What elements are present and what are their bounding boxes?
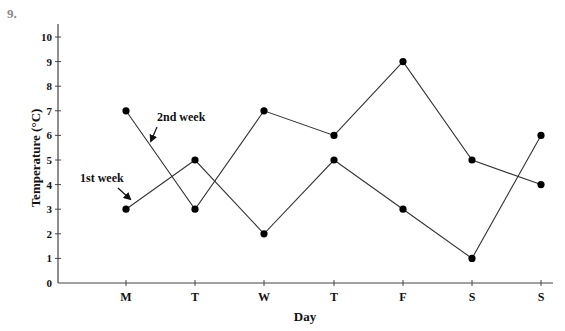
data-point	[399, 58, 406, 65]
annotations: 1st week2nd week	[80, 110, 206, 199]
label-2nd-week: 2nd week	[157, 110, 206, 124]
x-tick-label: F	[399, 290, 406, 304]
series-lines	[122, 58, 544, 262]
data-point	[330, 132, 337, 139]
y-tick-label: 3	[47, 203, 53, 215]
y-axis-label: Temperature (°C)	[28, 109, 43, 208]
y-tick-label: 1	[47, 252, 53, 264]
data-point	[122, 206, 129, 213]
x-tick-label: S	[538, 290, 545, 304]
arrow-1st-week-icon	[118, 188, 130, 199]
y-tick-label: 2	[47, 228, 53, 240]
y-tick-label: 7	[47, 105, 53, 117]
data-point	[260, 230, 267, 237]
y-tick-label: 6	[47, 129, 53, 141]
x-tick-label: S	[469, 290, 476, 304]
data-point	[468, 156, 475, 163]
data-point	[260, 107, 267, 114]
x-tick-label: M	[120, 290, 131, 304]
y-tick-label: 0	[47, 277, 53, 289]
y-tick-label: 8	[47, 80, 53, 92]
x-tick-label: T	[330, 290, 338, 304]
y-tick-label: 10	[41, 31, 53, 43]
y-tick-label: 5	[47, 154, 53, 166]
label-1st-week: 1st week	[80, 171, 124, 185]
data-point	[537, 132, 544, 139]
data-point	[468, 255, 475, 262]
axes: 012345678910MTWTFSS	[41, 24, 553, 304]
data-point	[122, 107, 129, 114]
x-tick-label: T	[191, 290, 199, 304]
data-point	[191, 206, 198, 213]
arrow-2nd-week-icon	[151, 127, 157, 141]
line-chart: 012345678910MTWTFSS 1st week2nd week Day…	[0, 0, 565, 331]
x-tick-label: W	[258, 290, 270, 304]
data-point	[330, 156, 337, 163]
data-point	[537, 181, 544, 188]
x-axis-label: Day	[294, 309, 317, 324]
data-point	[191, 156, 198, 163]
data-point	[399, 206, 406, 213]
series-line-1	[126, 135, 541, 258]
y-tick-label: 4	[47, 179, 53, 191]
y-tick-label: 9	[47, 56, 53, 68]
